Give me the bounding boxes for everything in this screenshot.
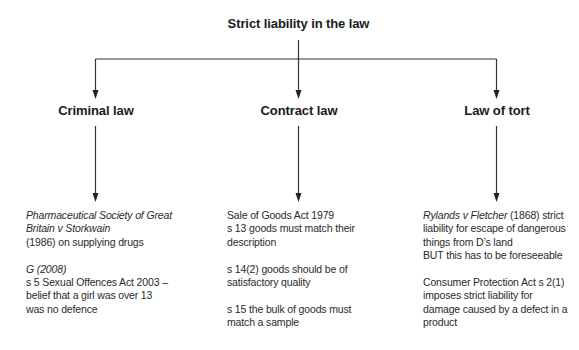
tort-rylands-v-fletcher: Rylands v Fletcher (1868) strict liabili… (423, 209, 579, 263)
case-line: Rylands v Fletcher (1868) strict (423, 209, 579, 222)
case-name: Rylands v Fletcher (423, 209, 507, 221)
statute-line: s 14(2) goods should be of (227, 263, 387, 276)
tort-law-notes: Rylands v Fletcher (1868) strict liabili… (423, 209, 579, 330)
heading-law-of-tort: Law of tort (397, 103, 579, 118)
case-detail: s 5 Sexual Offences Act 2003 – (26, 276, 196, 289)
statute-line: s 15 the bulk of goods must (227, 303, 387, 316)
case-detail: was no defence (26, 303, 196, 316)
statute-line: Consumer Protection Act s 2(1) (423, 276, 579, 289)
contract-law-notes: Sale of Goods Act 1979 s 13 goods must m… (227, 209, 387, 330)
contract-s14: s 14(2) goods should be of satisfactory … (227, 263, 387, 290)
heading-criminal-law: Criminal law (0, 103, 196, 118)
contract-s15: s 15 the bulk of goods must match a samp… (227, 303, 387, 330)
case-name: Britain v Storkwain (26, 222, 196, 235)
case-name: Pharmaceutical Society of Great (26, 209, 196, 222)
tort-consumer-protection-act: Consumer Protection Act s 2(1) imposes s… (423, 276, 579, 330)
criminal-law-notes: Pharmaceutical Society of Great Britain … (26, 209, 196, 316)
statute-line: damage caused by a defect in a (423, 303, 579, 316)
statute-line: satisfactory quality (227, 276, 387, 289)
case-name: G (2008) (26, 263, 196, 276)
arrow-down-icon (296, 59, 302, 99)
contract-sale-of-goods-s13: Sale of Goods Act 1979 s 13 goods must m… (227, 209, 387, 249)
case-detail: things from D’s land (423, 236, 579, 249)
heading-contract-law: Contract law (199, 103, 399, 118)
statute-line: imposes strict liability for (423, 289, 579, 302)
statute-line: description (227, 236, 387, 249)
case-detail: BUT this has to be foreseeable (423, 249, 579, 262)
arrow-down-icon (93, 59, 99, 99)
arrow-down-icon (296, 126, 302, 202)
arrow-down-icon (494, 126, 500, 202)
statute-line: Sale of Goods Act 1979 (227, 209, 387, 222)
case-detail: (1986) on supplying drugs (26, 236, 196, 249)
statute-line: match a sample (227, 316, 387, 329)
statute-line: product (423, 316, 579, 329)
statute-line: s 13 goods must match their (227, 222, 387, 235)
case-detail: belief that a girl was over 13 (26, 289, 196, 302)
arrow-down-icon (494, 59, 500, 99)
case-detail: liability for escape of dangerous (423, 222, 579, 235)
criminal-case-g: G (2008) s 5 Sexual Offences Act 2003 – … (26, 263, 196, 317)
criminal-case-pharmaceutical: Pharmaceutical Society of Great Britain … (26, 209, 196, 249)
arrow-down-icon (93, 126, 99, 202)
case-detail: (1868) strict (507, 209, 563, 221)
